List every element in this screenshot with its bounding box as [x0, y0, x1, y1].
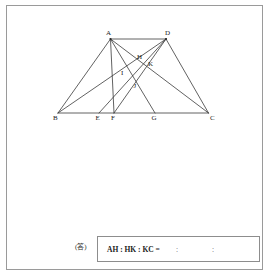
vertex-label-A: A [106, 30, 111, 37]
segment-AB [58, 39, 111, 113]
page-root: ADBCEFGHIJK (答) AH : HK : KC = : : [0, 0, 269, 276]
vertex-label-K: K [148, 61, 153, 68]
answer-blank-2[interactable] [184, 246, 210, 254]
answer-separator-1: : [176, 245, 178, 254]
vertex-label-F: F [111, 115, 115, 122]
vertex-label-E: E [96, 115, 100, 122]
vertex-label-H: H [137, 54, 142, 61]
answer-box-inner: AH : HK : KC = : : [98, 237, 259, 261]
vertex-label-J: J [134, 83, 137, 90]
geometry-figure: ADBCEFGHIJK [0, 0, 269, 276]
answer-blank-3[interactable] [220, 246, 246, 254]
geometry-svg [0, 0, 269, 276]
vertex-label-D: D [165, 30, 170, 37]
vertex-label-C: C [210, 115, 215, 122]
answer-box[interactable]: AH : HK : KC = : : [97, 236, 260, 262]
answer-separator-2: : [212, 245, 214, 254]
segment-group [58, 39, 209, 113]
vertex-label-I: I [121, 70, 123, 77]
vertex-dot-A [109, 38, 111, 40]
vertex-label-B: B [53, 115, 58, 122]
vertex-label-G: G [152, 115, 157, 122]
vertex-dot-D [165, 38, 167, 40]
answer-tag-label: (答) [75, 242, 87, 252]
segment-AC [111, 39, 209, 113]
answer-row: (答) AH : HK : KC = : : [6, 236, 263, 264]
segment-DB [58, 39, 166, 113]
segment-DC [166, 39, 209, 113]
segment-DE [99, 39, 166, 113]
answer-blank-1[interactable] [150, 246, 174, 254]
